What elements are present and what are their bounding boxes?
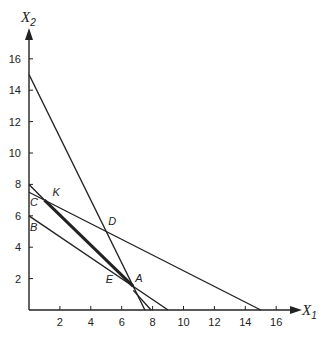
y-tick-label: 10 <box>9 147 21 159</box>
y-tick-label: 14 <box>9 84 21 96</box>
constraint-lines <box>29 75 261 311</box>
x-tick-label: 10 <box>177 316 189 328</box>
line-x1+x2=8-tail <box>133 290 151 310</box>
y-tick-label: 4 <box>15 241 21 253</box>
x-tick-label: 16 <box>270 316 282 328</box>
x-tick-label: 14 <box>239 316 251 328</box>
y-tick-label: 8 <box>15 178 21 190</box>
point-label-e: E <box>106 273 114 285</box>
point-label-b: B <box>30 221 37 233</box>
line-2x1+x2=15 <box>29 75 145 311</box>
y-tick-label: 6 <box>15 210 21 222</box>
x-tick-label: 4 <box>88 316 94 328</box>
line-x1+2x2=15 <box>29 192 261 310</box>
point-label-a: A <box>134 272 142 284</box>
y-tick-label: 12 <box>9 116 21 128</box>
point-label-k: K <box>52 186 60 198</box>
point-label-d: D <box>108 215 116 227</box>
point-label-c: C <box>30 196 38 208</box>
x-axis-label: X1 <box>301 302 317 321</box>
x-tick-label: 12 <box>208 316 220 328</box>
linear-programming-chart: 246810121416246810121416 KCBDEA X1 X2 <box>0 0 331 342</box>
y-tick-label: 16 <box>9 53 21 65</box>
axes: 246810121416246810121416 <box>9 28 302 328</box>
y-tick-label: 2 <box>15 273 21 285</box>
y-axis-label: X2 <box>20 9 36 28</box>
x-tick-label: 6 <box>119 316 125 328</box>
thick-segment-K-A <box>44 200 133 286</box>
x-tick-label: 2 <box>57 316 63 328</box>
x-tick-label: 8 <box>150 316 156 328</box>
x-axis-arrow-icon <box>290 306 302 314</box>
y-axis-arrow-icon <box>25 28 33 40</box>
line-2x1+3x2=18 <box>29 216 168 310</box>
